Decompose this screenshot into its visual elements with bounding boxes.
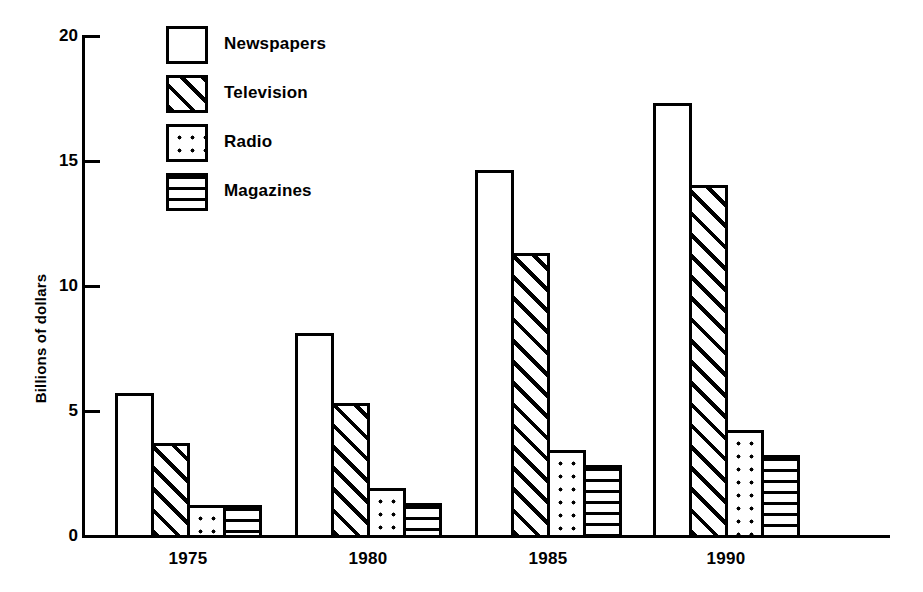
legend-label-television: Television (224, 83, 308, 103)
bar-1990-magazines (761, 455, 800, 538)
legend-swatch-radio-icon (166, 124, 208, 162)
y-tick-label-0: 0 (44, 527, 78, 544)
y-tick-label-5: 5 (44, 402, 78, 419)
x-axis-label-1975: 1975 (148, 549, 228, 569)
bar-1975-radio (187, 505, 226, 538)
bar-1990-newspapers (653, 103, 692, 538)
bar-1990-television (689, 185, 728, 538)
x-axis-label-1985: 1985 (508, 549, 588, 569)
legend-swatch-magazines-icon (166, 173, 208, 211)
bar-1985-radio (547, 450, 586, 538)
y-tick-label-15: 15 (44, 152, 78, 169)
legend-label-newspapers: Newspapers (224, 34, 326, 54)
legend-swatch-newspapers-icon (166, 26, 208, 64)
bar-1980-radio (367, 488, 406, 538)
y-axis-line (82, 35, 85, 537)
bar-1975-magazines (223, 505, 262, 538)
bar-1975-television (151, 443, 190, 538)
bar-1985-newspapers (475, 170, 514, 538)
y-tick-label-10: 10 (44, 277, 78, 294)
y-tick-mark-5 (84, 410, 100, 413)
y-tick-mark-20 (84, 35, 100, 38)
legend-swatch-television-icon (166, 75, 208, 113)
bar-1975-newspapers (115, 393, 154, 538)
bar-1985-magazines (583, 465, 622, 538)
bar-1980-newspapers (295, 333, 334, 538)
bar-1980-television (331, 403, 370, 538)
bar-1985-television (511, 253, 550, 538)
legend-label-radio: Radio (224, 132, 272, 152)
bar-chart: Billions of dollars 20 15 10 5 0 1975 19… (0, 0, 923, 592)
legend-label-magazines: Magazines (224, 181, 312, 201)
y-tick-mark-15 (84, 160, 100, 163)
bar-1980-magazines (403, 503, 442, 538)
bar-1990-radio (725, 430, 764, 538)
y-tick-mark-10 (84, 285, 100, 288)
y-tick-label-20: 20 (44, 27, 78, 44)
x-axis-label-1980: 1980 (328, 549, 408, 569)
x-axis-label-1990: 1990 (686, 549, 766, 569)
